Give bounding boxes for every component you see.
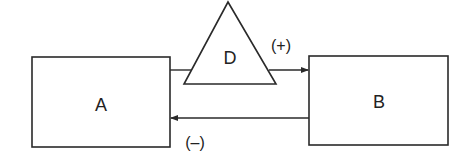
node-a: A bbox=[32, 57, 170, 147]
node-b: B bbox=[309, 56, 448, 145]
edge-negative-label: (–) bbox=[185, 134, 205, 151]
node-a-label: A bbox=[95, 95, 107, 115]
edge-negative: (–) bbox=[171, 118, 309, 151]
node-d: D bbox=[184, 2, 276, 84]
node-d-triangle bbox=[184, 2, 276, 84]
feedback-diagram: A B D (+) (–) bbox=[0, 0, 471, 164]
node-d-label: D bbox=[224, 48, 237, 68]
edge-positive-label: (+) bbox=[271, 37, 291, 54]
node-b-label: B bbox=[373, 92, 385, 112]
